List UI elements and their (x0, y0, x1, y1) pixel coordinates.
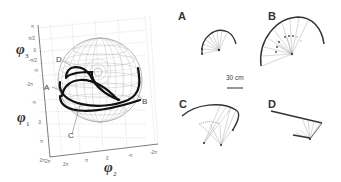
panel-label-c: C (179, 98, 187, 110)
panel-c-linkages (200, 106, 236, 145)
panel-label-a: A (178, 10, 186, 22)
tick: π (40, 139, 43, 144)
tick: 2π (45, 159, 51, 164)
scale-bar: 30 cm (226, 74, 244, 88)
scale-bar-label: 30 cm (226, 74, 244, 81)
trajectory-label-c: C (68, 131, 74, 140)
tick: π (31, 24, 34, 29)
tick: -2π (26, 82, 33, 87)
tick: π/2 (28, 36, 35, 41)
panel-d: D (268, 98, 322, 140)
panel-b: B (261, 10, 324, 66)
tick: 0 (33, 48, 36, 53)
trajectories (60, 67, 140, 111)
svg-text:1: 1 (26, 120, 30, 128)
figure-canvas: π π/2 0 -π/2 -π -2π -π 0 π 2π 2π 2π π 0 … (0, 0, 341, 182)
panel-d-path (271, 111, 322, 123)
svg-text:φ: φ (104, 159, 113, 175)
panel-a: A (178, 10, 236, 55)
panel-a-linkages (202, 31, 227, 54)
sphere-plot: π π/2 0 -π/2 -π -2π -π 0 π 2π 2π 2π π 0 … (16, 16, 158, 178)
tick: -π (33, 68, 38, 73)
trajectory-label-d: D (56, 55, 62, 64)
svg-text:φ: φ (17, 109, 26, 125)
panel-b-path (261, 17, 324, 66)
axis-label-phi3: φ 3 (16, 41, 29, 60)
tick: 0 (38, 120, 41, 125)
svg-text:2: 2 (113, 170, 117, 178)
trajectory-label-a: A (44, 83, 50, 92)
panel-label-d: D (268, 98, 276, 110)
panel-label-b: B (268, 10, 276, 22)
tick: 2π (63, 162, 69, 167)
svg-text:φ: φ (16, 41, 25, 57)
panel-c: C (179, 98, 239, 146)
vertical-tick-labels: π π/2 0 -π/2 -π -2π -π 0 π 2π (26, 24, 45, 163)
axis-label-phi1: φ 1 (17, 109, 30, 128)
tick: -2π (150, 150, 157, 155)
tick: -π (31, 100, 36, 105)
tick: -π/2 (29, 58, 38, 63)
bottom-axis (50, 144, 158, 157)
tick: -π (128, 153, 133, 158)
tick: π (85, 158, 88, 163)
trajectory-label-b: B (142, 97, 147, 106)
svg-text:3: 3 (25, 52, 29, 60)
panel-b-linkages (262, 18, 308, 66)
panel-c-path (182, 105, 239, 130)
axis-label-phi2: φ 2 (104, 159, 117, 178)
